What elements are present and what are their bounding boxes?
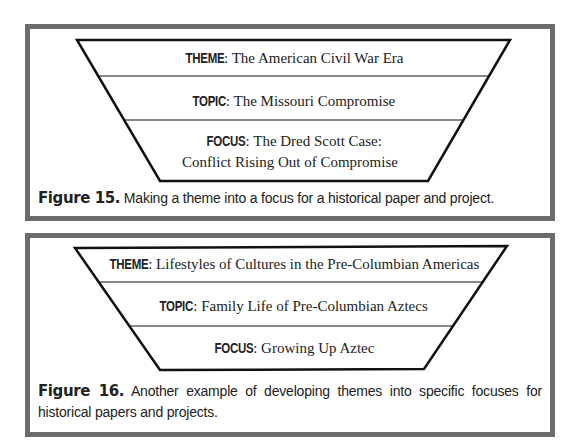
level-label: TOPIC [160, 296, 194, 316]
funnel-level-topic: TOPIC: The Missouri Compromise [30, 91, 550, 111]
level-separator: : [193, 298, 201, 314]
figure-caption: Figure 16. Another example of developing… [38, 381, 542, 423]
figure-caption: Figure 15. Making a theme into a focus f… [38, 188, 542, 209]
funnel-level-focus: FOCUS: The Dred Scott Case: [30, 131, 550, 151]
level-text: The American Civil War Era [232, 50, 404, 66]
level-text: The Dred Scott Case: [253, 133, 382, 149]
level-text: Conflict Rising Out of Compromise [182, 154, 398, 170]
level-text: The Missouri Compromise [234, 93, 396, 109]
funnel-level-theme: THEME: Lifestyles of Cultures in the Pre… [30, 254, 550, 274]
funnel-level-focus-line2: Conflict Rising Out of Compromise [30, 152, 550, 172]
level-label: TOPIC [192, 91, 226, 111]
funnel-level-theme: THEME: The American Civil War Era [30, 48, 550, 68]
caption-number: Figure 16. [38, 382, 124, 400]
level-text: Lifestyles of Cultures in the Pre-Columb… [156, 256, 479, 272]
figure-15-panel: THEME: The American Civil War Era TOPIC:… [25, 24, 555, 221]
caption-number: Figure 15. [38, 189, 120, 207]
level-label: THEME [109, 254, 148, 274]
funnel-level-focus: FOCUS: Growing Up Aztec [30, 338, 550, 358]
level-label: THEME [185, 48, 224, 68]
funnel-level-topic: TOPIC: Family Life of Pre-Columbian Azte… [30, 296, 550, 316]
level-text: Family Life of Pre-Columbian Aztecs [201, 298, 428, 314]
caption-text: Making a theme into a focus for a histor… [120, 190, 494, 206]
level-text: Growing Up Aztec [261, 340, 374, 356]
level-separator: : [253, 340, 261, 356]
figure-16-panel: THEME: Lifestyles of Cultures in the Pre… [25, 233, 555, 437]
level-separator: : [226, 93, 234, 109]
level-label: FOCUS [214, 338, 253, 358]
level-separator: : [148, 256, 156, 272]
level-label: FOCUS [207, 131, 246, 151]
level-separator: : [224, 50, 232, 66]
